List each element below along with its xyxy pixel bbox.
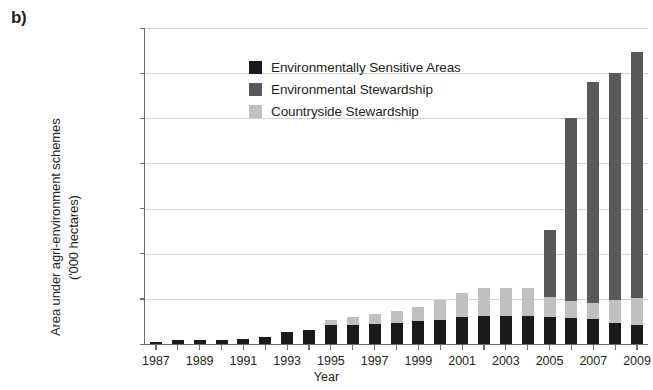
bar-segment xyxy=(434,300,446,319)
bar-group[interactable] xyxy=(478,288,490,344)
legend-swatch-icon xyxy=(249,105,262,118)
x-tick-mark xyxy=(308,344,309,350)
legend-label: Environmentally Sensitive Areas xyxy=(271,60,461,75)
bar-segment xyxy=(347,325,359,344)
x-tick-mark xyxy=(352,344,353,350)
bar-segment xyxy=(500,288,512,316)
x-axis-title: Year xyxy=(0,370,653,384)
x-tick-mark xyxy=(505,344,506,350)
x-tick-label: 2007 xyxy=(579,354,607,368)
x-tick-mark xyxy=(330,344,331,350)
bar-segment xyxy=(544,317,556,344)
x-tick-mark xyxy=(549,344,550,350)
bar-segment xyxy=(347,317,359,324)
bar-segment xyxy=(391,323,403,344)
bar-group[interactable] xyxy=(609,73,621,344)
x-tick-label: 1991 xyxy=(230,354,258,368)
bar-segment xyxy=(456,317,468,344)
bar-segment xyxy=(631,52,643,298)
x-tick-mark xyxy=(243,344,244,350)
x-tick-mark xyxy=(396,344,397,350)
x-tick-mark xyxy=(462,344,463,350)
x-tick-label: 2009 xyxy=(623,354,651,368)
x-tick-label: 2001 xyxy=(448,354,476,368)
bar-segment xyxy=(609,300,621,323)
bar-group[interactable] xyxy=(544,230,556,344)
y-tick-mark xyxy=(140,163,145,164)
bar-segment xyxy=(631,298,643,324)
bar-segment xyxy=(281,332,293,344)
bar-segment xyxy=(478,316,490,344)
bar-group[interactable] xyxy=(587,82,599,344)
bar-group[interactable] xyxy=(631,52,643,344)
legend-item[interactable]: Environmental Stewardship xyxy=(249,79,461,99)
bar-group[interactable] xyxy=(412,307,424,344)
legend-item[interactable]: Countryside Stewardship xyxy=(249,101,461,121)
bar-segment xyxy=(434,320,446,344)
y-tick-mark xyxy=(140,28,145,29)
y-tick-mark xyxy=(140,298,145,299)
bar-segment xyxy=(544,230,556,297)
x-tick-mark xyxy=(177,344,178,350)
bar-segment xyxy=(391,311,403,323)
bar-segment xyxy=(456,293,468,317)
x-tick-mark xyxy=(155,344,156,350)
bar-segment xyxy=(369,314,381,324)
x-tick-mark xyxy=(287,344,288,350)
x-tick-mark xyxy=(571,344,572,350)
bar-segment xyxy=(369,324,381,344)
bar-segment xyxy=(412,321,424,344)
bar-segment xyxy=(587,319,599,344)
x-tick-label: 1997 xyxy=(361,354,389,368)
bar-group[interactable] xyxy=(522,288,534,344)
x-tick-label: 2005 xyxy=(536,354,564,368)
bar-group[interactable] xyxy=(500,288,512,344)
x-tick-mark xyxy=(418,344,419,350)
bar-segment xyxy=(325,320,337,325)
bar-segment xyxy=(412,307,424,321)
legend-item[interactable]: Environmentally Sensitive Areas xyxy=(249,57,461,77)
legend-swatch-icon xyxy=(249,61,262,74)
figure-panel-b: b) Area under agri-environment schemes (… xyxy=(0,0,653,390)
x-tick-mark xyxy=(374,344,375,350)
legend-label: Countryside Stewardship xyxy=(271,104,419,119)
bar-segment xyxy=(522,288,534,317)
bar-group[interactable] xyxy=(456,293,468,344)
bar-group[interactable] xyxy=(303,330,315,344)
bar-segment xyxy=(500,316,512,344)
bar-group[interactable] xyxy=(281,332,293,344)
x-tick-label: 1995 xyxy=(317,354,345,368)
x-tick-mark xyxy=(636,344,637,350)
bar-group[interactable] xyxy=(391,311,403,344)
bar-group[interactable] xyxy=(325,320,337,344)
legend-label: Environmental Stewardship xyxy=(271,82,433,97)
x-tick-label: 2003 xyxy=(492,354,520,368)
x-tick-mark xyxy=(221,344,222,350)
y-tick-mark xyxy=(140,208,145,209)
x-tick-label: 1993 xyxy=(273,354,301,368)
bar-segment xyxy=(587,82,599,303)
gridline xyxy=(145,28,648,29)
bar-group[interactable] xyxy=(565,118,577,344)
bar-group[interactable] xyxy=(259,337,271,344)
y-tick-mark xyxy=(140,344,145,345)
bar-segment xyxy=(522,316,534,344)
bar-group[interactable] xyxy=(434,300,446,344)
bar-segment xyxy=(609,73,621,300)
x-tick-label: 1989 xyxy=(186,354,214,368)
x-tick-mark xyxy=(440,344,441,350)
panel-label: b) xyxy=(11,8,26,28)
y-tick-mark xyxy=(140,118,145,119)
x-tick-mark xyxy=(615,344,616,350)
bar-group[interactable] xyxy=(347,317,359,344)
y-tick-mark xyxy=(140,253,145,254)
bar-segment xyxy=(587,303,599,319)
bar-group[interactable] xyxy=(369,314,381,344)
x-tick-mark xyxy=(199,344,200,350)
bar-segment xyxy=(478,288,490,316)
bar-segment xyxy=(609,323,621,344)
bar-segment xyxy=(565,301,577,318)
legend-swatch-icon xyxy=(249,83,262,96)
x-tick-mark xyxy=(265,344,266,350)
x-tick-label: 1987 xyxy=(142,354,170,368)
